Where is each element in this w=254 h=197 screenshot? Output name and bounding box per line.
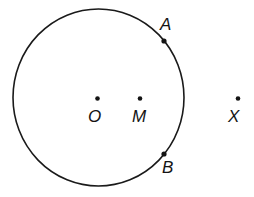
point-a-dot [161, 38, 166, 43]
label-a: A [160, 16, 171, 33]
label-m: M [132, 108, 146, 125]
point-m-dot [138, 96, 143, 101]
label-b: B [162, 159, 173, 176]
point-o-dot [95, 96, 100, 101]
point-b-dot [161, 151, 166, 156]
geometry-diagram [0, 0, 254, 197]
label-o: O [88, 108, 101, 125]
point-x-dot [236, 96, 241, 101]
label-x: X [228, 108, 239, 125]
